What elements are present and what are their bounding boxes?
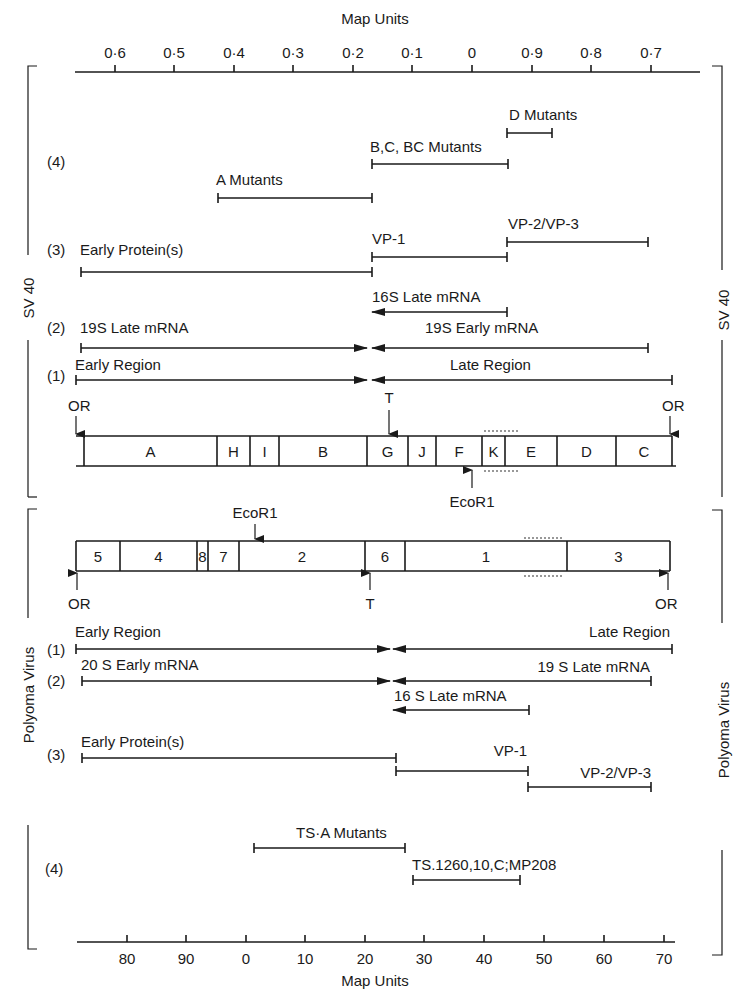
sv40-early-protein-span <box>81 267 372 277</box>
polyoma-late-region-label: Late Region <box>589 623 670 640</box>
polyoma-20s-early-mrna-arrow <box>82 676 390 686</box>
polyoma-side-label-right: Polyoma Virus <box>715 682 732 778</box>
sv40-origin-right-label: OR <box>662 397 685 414</box>
polyoma-ts1260-mutants-label: TS.1260,10,C;MP208 <box>412 856 556 873</box>
sv40-fragment-label: J <box>418 443 426 460</box>
polyoma-early-protein-label: Early Protein(s) <box>81 733 184 750</box>
top-axis-tick-label: 0·5 <box>163 44 185 61</box>
top-axis-tick-label: 0·1 <box>401 44 423 61</box>
polyoma-vp23-span <box>528 782 651 792</box>
sv40-polyoma-map-diagram: Map Units 0·60·50·40·30·20·100·90·80·7 S… <box>0 0 749 1000</box>
polyoma-fragment-label: 8 <box>198 548 206 565</box>
polyoma-fragment-2: 2 <box>239 541 306 571</box>
polyoma-late-region-arrow <box>393 644 672 654</box>
polyoma-side-label-left: Polyoma Virus <box>20 647 37 743</box>
sv40-16s-late-mrna-arrow <box>372 307 507 317</box>
sv40-fragment-A: A <box>84 436 156 466</box>
bottom-axis-tick-label: 70 <box>656 950 673 967</box>
sv40-fragment-label: E <box>526 443 536 460</box>
sv40-side-label-left: SV 40 <box>20 278 37 319</box>
top-axis-tick-label: 0·8 <box>580 44 602 61</box>
polyoma-row3-label: (3) <box>47 746 65 763</box>
polyoma-origin-left-label: OR <box>68 595 91 612</box>
bottom-axis-ticks: 8090010203040506070 <box>119 935 673 967</box>
sv40-fragment-G: G <box>367 436 393 466</box>
polyoma-fragment-label: 3 <box>614 548 622 565</box>
top-axis: Map Units 0·60·50·40·30·20·100·90·80·7 <box>75 10 700 72</box>
top-axis-tick-label: 0·6 <box>104 44 126 61</box>
sv40-a-mutants-label: A Mutants <box>216 171 283 188</box>
sv40-fragment-label: B <box>318 443 328 460</box>
sv40-early-region-arrow <box>76 375 367 385</box>
sv40-fragment-I: I <box>250 436 267 466</box>
sv40-fragment-label: C <box>639 443 650 460</box>
sv40-row3-label: (3) <box>47 241 65 258</box>
sv40-19s-late-mrna-label: 19S Late mRNA <box>80 319 188 336</box>
polyoma-ecor1-label: EcoR1 <box>232 504 277 521</box>
sv40-early-protein-label: Early Protein(s) <box>80 241 183 258</box>
sv40-terminus-label: T <box>384 389 393 406</box>
polyoma-19s-late-mrna-arrow <box>393 676 651 686</box>
bottom-axis-tick-label: 80 <box>119 950 136 967</box>
sv40-d-mutants-span <box>507 128 552 138</box>
polyoma-tsa-mutants-label: TS·A Mutants <box>296 824 387 841</box>
polyoma-fragment-label: 2 <box>298 548 306 565</box>
polyoma-fragment-8: 8 <box>197 541 207 571</box>
polyoma-restriction-map: 54872613 <box>76 538 670 576</box>
top-axis-tick-label: 0 <box>468 44 476 61</box>
sv40-fragment-label: F <box>454 443 463 460</box>
sv40-fragment-J: J <box>408 436 426 466</box>
polyoma-fragment-label: 1 <box>482 548 490 565</box>
sv40-bc-mutants-label: B,C, BC Mutants <box>370 138 482 155</box>
polyoma-row4-label: (4) <box>45 860 63 877</box>
polyoma-early-region-arrow <box>76 644 390 654</box>
sv40-origin-left-label: OR <box>68 397 91 414</box>
polyoma-vp1-span <box>396 766 528 776</box>
sv40-19s-early-mrna-arrow <box>372 343 648 353</box>
sv40-fragment-B: B <box>279 436 328 466</box>
top-axis-ticks: 0·60·50·40·30·20·100·90·80·7 <box>104 44 662 72</box>
polyoma-tsa-mutants-span <box>254 843 405 853</box>
sv40-19s-late-mrna-arrow <box>81 343 367 353</box>
polyoma-row1-label: (1) <box>47 641 65 658</box>
sv40-fragment-D: D <box>557 436 592 466</box>
sv40-row2-label: (2) <box>47 319 65 336</box>
top-axis-tick-label: 0·2 <box>342 44 364 61</box>
top-axis-tick-label: 0·7 <box>640 44 662 61</box>
sv40-ecor1-label: EcoR1 <box>449 493 494 510</box>
bottom-axis-title: Map Units <box>341 972 409 989</box>
polyoma-fragment-3: 3 <box>567 541 670 571</box>
polyoma-fragment-5: 5 <box>76 541 102 571</box>
sv40-late-region-arrow <box>372 375 672 385</box>
bottom-axis-tick-label: 20 <box>357 950 374 967</box>
sv40-vp1-label: VP-1 <box>372 230 405 247</box>
bottom-axis-tick-label: 30 <box>416 950 433 967</box>
bottom-axis-tick-label: 40 <box>476 950 493 967</box>
sv40-restriction-map: AHIBGJFKEDC <box>76 431 676 471</box>
bottom-axis-tick-label: 90 <box>178 950 195 967</box>
sv40-fragment-C: C <box>616 436 672 466</box>
sv40-fragment-label: G <box>382 443 394 460</box>
polyoma-vp23-label: VP-2/VP-3 <box>580 764 651 781</box>
sv40-row4-label: (4) <box>47 153 65 170</box>
polyoma-fragment-label: 7 <box>219 548 227 565</box>
polyoma-fragment-label: 6 <box>381 548 389 565</box>
polyoma-16s-late-mrna-arrow <box>393 705 529 715</box>
polyoma-ts1260-mutants-span <box>413 875 520 885</box>
polyoma-origin-right-label: OR <box>655 595 678 612</box>
sv40-16s-late-mrna-label: 16S Late mRNA <box>372 288 480 305</box>
bottom-axis-tick-label: 10 <box>297 950 314 967</box>
sv40-vp23-label: VP-2/VP-3 <box>508 215 579 232</box>
polyoma-fragment-label: 5 <box>94 548 102 565</box>
polyoma-fragment-6: 6 <box>365 541 389 571</box>
top-axis-tick-label: 0·9 <box>521 44 543 61</box>
polyoma-19s-late-mrna-label: 19 S Late mRNA <box>537 658 650 675</box>
sv40-fragment-label: K <box>488 443 498 460</box>
bottom-axis-tick-label: 0 <box>242 950 250 967</box>
sv40-fragment-label: A <box>145 443 155 460</box>
bottom-axis-tick-label: 60 <box>596 950 613 967</box>
top-axis-tick-label: 0·4 <box>223 44 245 61</box>
sv40-d-mutants-label: D Mutants <box>509 106 577 123</box>
bottom-axis-tick-label: 50 <box>536 950 553 967</box>
polyoma-early-region-label: Early Region <box>75 623 161 640</box>
